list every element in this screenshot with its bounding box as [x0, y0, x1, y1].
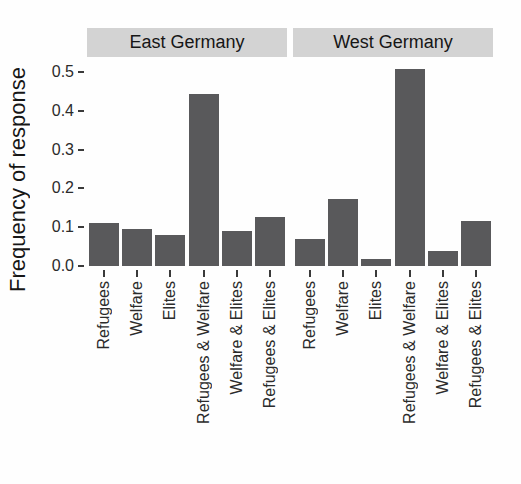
x-axis-tick [342, 270, 344, 277]
x-axis-tick [442, 270, 444, 277]
x-axis-tick-label-text: Welfare [128, 281, 146, 336]
x-axis-tick [169, 270, 171, 277]
x-axis-tick-label-text: Elites [367, 281, 385, 320]
bar [122, 229, 152, 266]
x-axis-tick-label: Welfare & Elites [226, 281, 248, 457]
x-axis-tick-label: Elites [365, 281, 387, 457]
bar [89, 223, 119, 266]
bar [395, 69, 425, 266]
bar [461, 221, 491, 266]
x-axis-tick [375, 270, 377, 277]
x-axis-tick-label-text: Elites [161, 281, 179, 320]
x-axis-tick-label: Welfare [126, 281, 148, 457]
y-axis-tick-label: 0.2 [30, 179, 74, 197]
x-axis-tick-label: Refugees & Elites [259, 281, 281, 457]
bar [255, 217, 285, 266]
y-axis-tick-label: 0.4 [30, 102, 74, 120]
facet-strip-label: East Germany [129, 32, 244, 53]
x-axis-tick-label-text: Welfare & Elites [228, 281, 246, 395]
x-axis-tick-label: Welfare & Elites [432, 281, 454, 457]
x-axis-tick-label: Refugees [93, 281, 115, 457]
x-axis-tick-label: Refugees [299, 281, 321, 457]
y-axis-tick-label: 0.0 [30, 257, 74, 275]
x-axis-tick-label-text: Refugees & Elites [467, 281, 485, 408]
x-axis-tick-label-text: Refugees & Welfare [401, 281, 419, 424]
x-axis-tick-label-text: Refugees [95, 281, 113, 350]
x-axis-tick [409, 270, 411, 277]
x-axis-tick-label: Elites [159, 281, 181, 457]
x-axis-tick [309, 270, 311, 277]
panel [293, 57, 493, 266]
facet-strip-label: West Germany [333, 32, 453, 53]
bar [295, 239, 325, 266]
x-axis-tick-label-text: Welfare & Elites [434, 281, 452, 395]
y-axis-title-text: Frequency of response [5, 67, 31, 292]
panel [87, 57, 287, 266]
bar [189, 94, 219, 266]
x-axis-tick [236, 270, 238, 277]
x-axis-tick [269, 270, 271, 277]
y-axis-tick [78, 149, 84, 151]
y-axis-tick-label: 0.1 [30, 218, 74, 236]
x-axis-tick-label-text: Refugees [301, 281, 319, 350]
y-axis-tick [78, 265, 84, 267]
y-axis-tick [78, 226, 84, 228]
x-axis-tick [475, 270, 477, 277]
bar [222, 231, 252, 266]
facet-strip: East Germany [87, 28, 287, 57]
x-axis-tick-label-text: Welfare [334, 281, 352, 336]
faceted-bar-chart: Frequency of response 0.00.10.20.30.40.5… [0, 0, 521, 484]
bar [428, 251, 458, 266]
bar [155, 235, 185, 266]
x-axis-tick-label-text: Refugees & Welfare [195, 281, 213, 424]
x-axis-tick-label: Refugees & Welfare [193, 281, 215, 457]
bar [328, 199, 358, 266]
y-axis-tick [78, 187, 84, 189]
y-axis-tick-label: 0.5 [30, 63, 74, 81]
y-axis-tick-label: 0.3 [30, 141, 74, 159]
bar [361, 259, 391, 266]
y-axis-tick [78, 71, 84, 73]
x-axis-tick-label: Welfare [332, 281, 354, 457]
facet-strip: West Germany [293, 28, 493, 57]
x-axis-tick-label-text: Refugees & Elites [261, 281, 279, 408]
y-axis-tick [78, 110, 84, 112]
x-axis-tick [136, 270, 138, 277]
x-axis-tick [203, 270, 205, 277]
x-axis-tick-label: Refugees & Elites [465, 281, 487, 457]
x-axis-tick [103, 270, 105, 277]
x-axis-tick-label: Refugees & Welfare [399, 281, 421, 457]
